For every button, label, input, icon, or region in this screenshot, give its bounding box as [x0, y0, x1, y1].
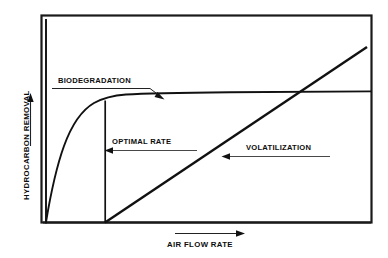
x-axis-label: AIR FLOW RATE — [167, 240, 233, 249]
x-axis-arrowhead-icon — [236, 230, 245, 236]
hydrocarbon-removal-chart: BIODEGRADATION OPTIMAL RATE VOLATILIZATI… — [0, 0, 388, 258]
volatilization-arrowhead-icon — [222, 153, 231, 159]
biodegradation-leader-line — [52, 89, 160, 97]
optimal-rate-label: OPTIMAL RATE — [112, 137, 171, 146]
figure-root: BIODEGRADATION OPTIMAL RATE VOLATILIZATI… — [0, 0, 388, 258]
chart-frame — [42, 16, 372, 223]
biodegradation-label: BIODEGRADATION — [58, 76, 131, 85]
y-axis-label: HYDROCARBON REMOVAL — [22, 90, 31, 200]
volatilization-line — [105, 47, 367, 223]
volatilization-label: VOLATILIZATION — [246, 143, 311, 152]
